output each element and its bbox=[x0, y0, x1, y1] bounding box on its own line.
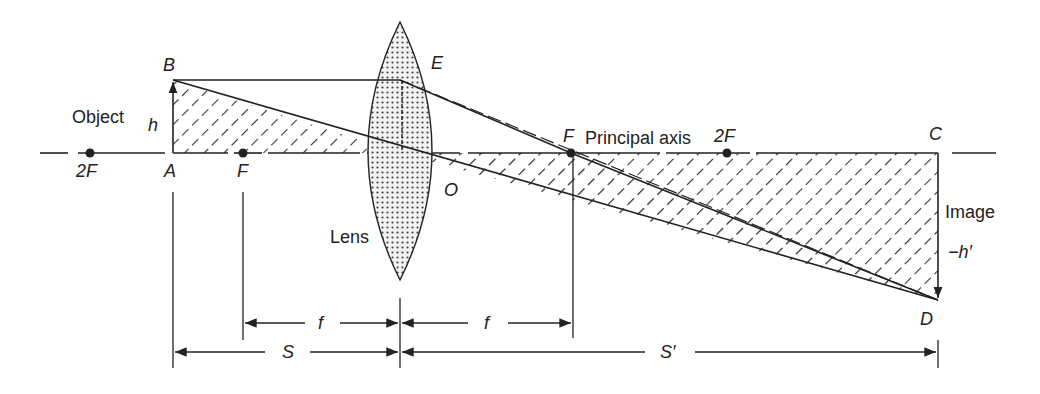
label-image: Image bbox=[945, 203, 995, 221]
label-object: Object bbox=[72, 108, 124, 126]
label-2f-right: 2F bbox=[714, 127, 735, 145]
label-2f-left: 2F bbox=[76, 162, 97, 180]
lens-diagram bbox=[0, 0, 1040, 394]
dim-s-prime: S′ bbox=[660, 343, 675, 361]
label-point-b: B bbox=[163, 56, 175, 74]
label-neg-h-prime: −h′ bbox=[948, 243, 972, 261]
label-f-left: F bbox=[237, 162, 248, 180]
point-f-right bbox=[567, 149, 576, 158]
label-point-c: C bbox=[929, 125, 942, 143]
label-f-right: F bbox=[563, 127, 574, 145]
label-point-a: A bbox=[164, 162, 176, 180]
label-point-o: O bbox=[444, 181, 458, 199]
point-2f-right bbox=[723, 149, 732, 158]
label-principal-axis: Principal axis bbox=[585, 129, 691, 147]
object-triangle-hatch bbox=[173, 80, 400, 153]
label-lens: Lens bbox=[330, 228, 369, 246]
point-2f-left bbox=[86, 149, 95, 158]
dim-f-left: f bbox=[318, 314, 323, 332]
dim-s: S bbox=[282, 343, 294, 361]
label-point-d: D bbox=[920, 310, 933, 328]
label-h: h bbox=[148, 116, 158, 134]
dim-f-right: f bbox=[484, 314, 489, 332]
point-f-left bbox=[239, 149, 248, 158]
label-point-e: E bbox=[431, 54, 443, 72]
